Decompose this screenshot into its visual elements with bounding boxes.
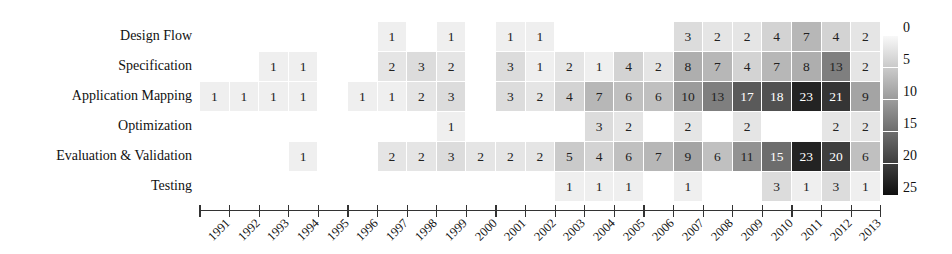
heatmap-cell: 1: [259, 82, 288, 111]
heatmap-cell: 11: [733, 142, 762, 171]
heatmap-cell: 2: [466, 142, 495, 171]
heatmap-cell: 2: [851, 52, 880, 81]
heatmap-cell: 2: [526, 82, 555, 111]
heatmap-cell: 9: [674, 142, 703, 171]
x-tick-label: 1998: [413, 216, 441, 244]
heatmap-cell: 3: [674, 22, 703, 51]
x-axis-tick: [673, 205, 674, 217]
x-axis-tick: [732, 205, 733, 217]
x-axis-tick: [791, 205, 792, 217]
x-tick-label: 2010: [768, 216, 796, 244]
colorbar-tick-label: 25: [903, 180, 917, 196]
heatmap-cell: 2: [703, 22, 732, 51]
heatmap-cell: 2: [822, 112, 851, 141]
heatmap-cell: 4: [614, 52, 643, 81]
x-axis-tick: [880, 205, 881, 217]
heatmap-cell: 1: [674, 172, 703, 201]
heatmap-cell: 5: [555, 142, 584, 171]
colorbar-tick-label: 20: [903, 148, 917, 164]
x-axis-tick: [821, 205, 822, 217]
x-axis-tick: [318, 205, 319, 217]
x-tick-label: 2004: [590, 216, 618, 244]
row-label: Application Mapping: [72, 88, 192, 104]
heatmap-cell: 1: [496, 22, 525, 51]
heatmap-cell: 1: [614, 172, 643, 201]
x-axis-tick: [851, 205, 852, 217]
heatmap-cell: 4: [585, 142, 614, 171]
heatmap-cell: 3: [585, 112, 614, 141]
heatmap-cell: 8: [792, 52, 821, 81]
x-tick-label: 1991: [205, 216, 233, 244]
x-axis-tick: [347, 205, 348, 217]
heatmap-cell: 1: [289, 82, 318, 111]
heatmap-cell: 1: [378, 82, 407, 111]
heatmap-cell: 6: [614, 142, 643, 171]
row-label: Specification: [118, 58, 192, 74]
heatmap-cell: 7: [644, 142, 673, 171]
x-tick-label: 2001: [501, 216, 529, 244]
heatmap-cell: 3: [496, 82, 525, 111]
x-axis-tick: [555, 205, 556, 217]
colorbar-segment: [883, 36, 898, 67]
heatmap-cell: 13: [822, 52, 851, 81]
x-axis-tick: [762, 205, 763, 217]
x-tick-label: 1999: [442, 216, 470, 244]
heatmap-cell: 3: [762, 172, 791, 201]
heatmap-cell: 1: [585, 172, 614, 201]
x-axis-tick: [525, 205, 526, 217]
heatmap-cell: 2: [407, 82, 436, 111]
heatmap-cell: 1: [526, 22, 555, 51]
heatmap-cell: 1: [259, 52, 288, 81]
row-label: Testing: [151, 178, 192, 194]
colorbar-tick-label: 5: [903, 52, 910, 68]
x-axis-tick: [377, 205, 378, 217]
row-label: Evaluation & Validation: [56, 148, 192, 164]
heatmap-cell: 18: [762, 82, 791, 111]
heatmap-cell: 1: [437, 112, 466, 141]
colorbar-segment: [883, 164, 898, 195]
heatmap-cell: 2: [526, 142, 555, 171]
heatmap-cell: 1: [289, 142, 318, 171]
heatmap-cell: 2: [674, 112, 703, 141]
heatmap-cell: 1: [348, 82, 377, 111]
heatmap-cell: 2: [496, 142, 525, 171]
x-axis-tick: [229, 205, 230, 217]
x-tick-label: 1994: [294, 216, 322, 244]
heatmap-cell: 6: [614, 82, 643, 111]
heatmap-cell: 7: [585, 82, 614, 111]
x-axis-tick: [288, 205, 289, 217]
heatmap-cell: 2: [614, 112, 643, 141]
x-axis-tick: [584, 205, 585, 217]
x-axis-tick: [407, 205, 408, 217]
heatmap-cell: 7: [762, 52, 791, 81]
heatmap-cell: 2: [407, 142, 436, 171]
x-tick-label: 1995: [324, 216, 352, 244]
heatmap-cell: 2: [733, 22, 762, 51]
heatmap-cell: 1: [526, 52, 555, 81]
heatmap-cell: 1: [792, 172, 821, 201]
x-tick-label: 1997: [383, 216, 411, 244]
x-axis-tick: [466, 205, 467, 217]
x-tick-label: 2009: [738, 216, 766, 244]
x-tick-label: 2011: [798, 216, 826, 244]
colorbar-tick-label: 10: [903, 84, 917, 100]
colorbar-segment: [883, 132, 898, 163]
x-tick-label: 2012: [827, 216, 855, 244]
x-axis-tick: [199, 205, 200, 217]
heatmap-cell: 17: [733, 82, 762, 111]
colorbar-segment: [883, 100, 898, 131]
x-axis-tick: [703, 205, 704, 217]
heatmap-chart: Design FlowSpecificationApplication Mapp…: [0, 0, 952, 254]
x-axis-tick: [643, 205, 644, 217]
heatmap-cell: 21: [822, 82, 851, 111]
heatmap-cell: 9: [851, 82, 880, 111]
heatmap-cell: 1: [851, 172, 880, 201]
heatmap-cell: 4: [555, 82, 584, 111]
heatmap-cell: 4: [762, 22, 791, 51]
x-axis-tick: [436, 205, 437, 217]
x-axis-tick: [614, 205, 615, 217]
heatmap-cell: 20: [822, 142, 851, 171]
heatmap-cell: 3: [496, 52, 525, 81]
heatmap-cell: 2: [555, 52, 584, 81]
heatmap-cell: 4: [733, 52, 762, 81]
